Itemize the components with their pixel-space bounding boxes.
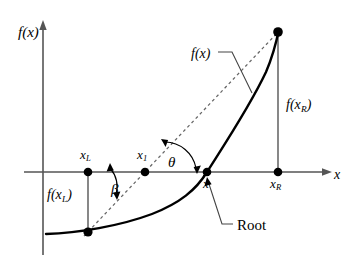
point-fxL-curve: [83, 227, 92, 236]
x-bar-text: x: [203, 177, 209, 190]
angle-theta-label: θ: [168, 155, 175, 170]
diagram-canvas: [0, 0, 356, 268]
x-left-label: xL: [80, 148, 91, 163]
x-right-subscript: R: [276, 182, 282, 192]
x-right-label: xR: [270, 177, 281, 192]
curve-label: f(x): [191, 47, 210, 61]
x-axis-label: x: [334, 168, 340, 182]
function-curve: [46, 29, 279, 234]
point-fxR-curve: [273, 27, 283, 37]
axis-group: [24, 20, 332, 255]
point-xR-on-axis: [274, 168, 283, 177]
x-right-text: x: [270, 176, 276, 191]
x-one-subscript: 1: [143, 153, 148, 163]
x-one-text: x: [137, 147, 143, 162]
x-axis-arrowhead: [322, 168, 332, 175]
secant-chord-dashed: [84, 29, 281, 236]
f-of-xL-close: ): [67, 187, 72, 202]
x-bar-label: x: [203, 177, 209, 190]
false-position-diagram: f(x) f(x) f(xR) f(xL) xL x1 xR x θ β x R…: [0, 0, 356, 268]
point-xL-on-axis: [84, 168, 93, 177]
f-of-xR-close: ): [307, 97, 312, 112]
root-callout-label: Root: [237, 218, 266, 233]
x-left-subscript: L: [86, 153, 91, 163]
f-of-xL-text: f(x: [47, 187, 62, 202]
angle-theta-arc: [161, 139, 201, 174]
x-one-label: x1: [137, 148, 147, 163]
leader-line-fx: [218, 52, 252, 93]
y-axis-label: f(x): [18, 25, 39, 40]
f-of-xL-label: f(xL): [47, 188, 72, 204]
angle-beta-label: β: [111, 182, 118, 197]
f-of-xR-label: f(xR): [286, 98, 311, 114]
x-left-text: x: [80, 147, 86, 162]
y-axis-arrowhead: [39, 20, 46, 30]
point-x1-on-axis: [141, 168, 150, 177]
f-of-xR-text: f(x: [286, 97, 301, 112]
